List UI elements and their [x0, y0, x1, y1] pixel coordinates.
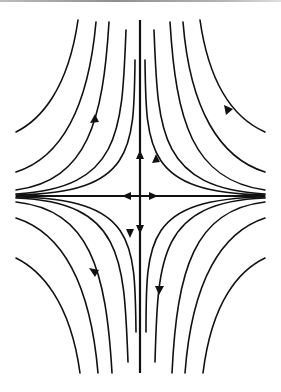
phase-portrait-diagram: [0, 0, 281, 392]
arrow-down-icon: [136, 225, 144, 234]
trajectory-upper-left-3: [16, 22, 109, 190]
arrow-down-icon: [126, 229, 134, 238]
trajectory-lower-left-2: [16, 218, 98, 373]
trajectory-lower-left-1: [16, 258, 80, 373]
trajectory-lower-left-3: [16, 202, 112, 373]
trajectory-upper-left-2: [16, 22, 96, 172]
trajectory-upper-left-1: [16, 20, 78, 132]
trajectory-lower-right-2: [185, 218, 265, 373]
trajectory-lower-right-3: [172, 202, 265, 373]
arrow-right-icon: [149, 192, 158, 200]
trajectory-lower-right-1: [203, 258, 265, 373]
arrow-down-icon: [89, 268, 99, 277]
trajectory-upper-right-1: [200, 20, 265, 132]
arrow-down-icon: [155, 286, 164, 295]
trajectory-upper-right-3: [170, 22, 265, 190]
arrow-left-icon: [122, 192, 131, 200]
trajectory-upper-right-4: [154, 30, 265, 194]
arrow-up-icon: [136, 150, 144, 159]
arrow-up-icon: [90, 114, 99, 123]
trajectory-upper-right-2: [183, 22, 265, 172]
